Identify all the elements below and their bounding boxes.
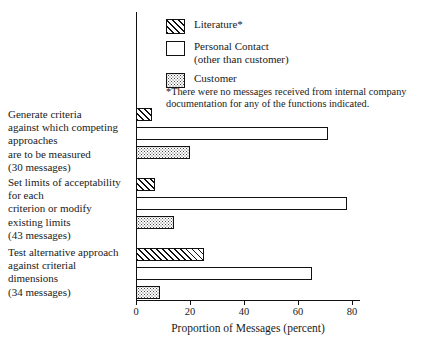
category-1-line-2: against which competing bbox=[8, 121, 133, 134]
legend-label-customer-main: Customer bbox=[194, 72, 237, 84]
x-tick-label-20: 20 bbox=[185, 306, 196, 318]
bar-group-3-personal bbox=[136, 267, 312, 280]
category-3-line-1: Test alternative approach bbox=[8, 246, 133, 259]
bar-chart: Literature* Personal Contact (other than… bbox=[0, 0, 423, 351]
category-2-line-4: existing limits bbox=[8, 216, 133, 229]
bar-group-2-customer bbox=[136, 216, 174, 229]
category-3-line-4: (34 messages) bbox=[8, 286, 133, 299]
bar-group-1-literature bbox=[136, 108, 152, 121]
legend-item-personal-contact: Personal Contact (other than customer) bbox=[166, 40, 289, 66]
category-label-1: Generate criteriaagainst which competing… bbox=[8, 108, 133, 174]
x-tick-label-60: 60 bbox=[293, 306, 304, 318]
x-axis-line bbox=[136, 300, 360, 301]
x-tick-mark-60 bbox=[298, 300, 299, 305]
category-1-line-1: Generate criteria bbox=[8, 108, 133, 121]
bar-group-3-literature bbox=[136, 248, 204, 261]
chart-footnote: *There were no messages received from in… bbox=[166, 86, 418, 110]
legend-swatch-literature-icon bbox=[166, 19, 185, 34]
bar-group-2-personal bbox=[136, 197, 347, 210]
x-tick-mark-80 bbox=[352, 300, 353, 305]
legend-swatch-personal-contact-icon bbox=[166, 41, 185, 56]
x-tick-label-0: 0 bbox=[133, 306, 138, 318]
legend-label-literature-main: Literature* bbox=[194, 18, 243, 30]
category-1-line-5: (30 messages) bbox=[8, 161, 133, 174]
category-label-3: Test alternative approachagainst criteri… bbox=[8, 246, 133, 299]
legend-label-personal-contact: Personal Contact (other than customer) bbox=[194, 40, 289, 66]
bar-group-1-customer bbox=[136, 146, 190, 159]
legend-label-customer: Customer bbox=[194, 72, 237, 85]
x-tick-mark-40 bbox=[244, 300, 245, 305]
category-3-line-2: against criterial bbox=[8, 259, 133, 272]
category-2-line-2: for each bbox=[8, 189, 133, 202]
legend-label-personal-contact-sub: (other than customer) bbox=[194, 53, 289, 66]
category-2-line-1: Set limits of acceptability bbox=[8, 176, 133, 189]
category-2-line-5: (43 messages) bbox=[8, 229, 133, 242]
bar-group-2-literature bbox=[136, 178, 155, 191]
bar-group-3-customer bbox=[136, 286, 160, 299]
legend-label-personal-contact-main: Personal Contact bbox=[194, 40, 269, 52]
category-1-line-3: approaches bbox=[8, 134, 133, 147]
category-3-line-3: dimensions bbox=[8, 272, 133, 285]
x-tick-label-40: 40 bbox=[239, 306, 250, 318]
x-tick-mark-20 bbox=[190, 300, 191, 305]
x-tick-label-80: 80 bbox=[347, 306, 358, 318]
category-2-line-3: criterion or modify bbox=[8, 202, 133, 215]
legend-item-literature: Literature* bbox=[166, 18, 243, 34]
legend-label-literature: Literature* bbox=[194, 18, 243, 31]
bar-group-1-personal bbox=[136, 127, 328, 140]
category-label-2: Set limits of acceptabilityfor eachcrite… bbox=[8, 176, 133, 242]
x-tick-mark-0 bbox=[136, 300, 137, 305]
x-axis-title: Proportion of Messages (percent) bbox=[136, 322, 360, 334]
category-1-line-4: are to be measured bbox=[8, 148, 133, 161]
